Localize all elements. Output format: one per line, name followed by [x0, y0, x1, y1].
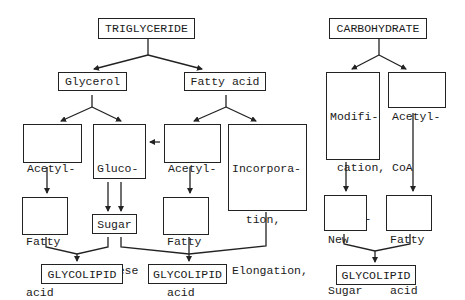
arrow-fattyacid-incorporation	[226, 107, 256, 121]
arrow-fattyacid-acetylcoa	[194, 107, 226, 121]
node-label: Modifi-	[330, 108, 376, 125]
node-fatty-acid-top: Fatty acid	[184, 72, 266, 91]
node-label: Acetyl-	[392, 108, 442, 125]
node-label: GLYCOLIPID	[341, 267, 410, 284]
node-acetyl-coa-left: Acetyl- CoA	[23, 124, 82, 163]
node-glycolipid-mid: GLYCOLIPID	[148, 264, 227, 284]
node-carbohydrate: CARBOHYDRATE	[329, 18, 427, 39]
node-acetyl-coa-mid: Acetyl- CoA	[164, 124, 221, 163]
node-label: Gluco-	[97, 160, 142, 177]
arrow-carbohydrate-modification	[352, 55, 379, 69]
node-label: Acetyl-	[27, 160, 78, 177]
node-label: Fatty acid	[190, 73, 259, 90]
node-fatty-acid-left: Fatty acid	[22, 197, 68, 235]
node-sugar: Sugar	[92, 214, 137, 234]
node-label: New	[328, 231, 363, 248]
arrow-carbohydrate-acetylcoa	[379, 55, 406, 69]
node-label: Fatty	[167, 233, 205, 250]
arrow-triglyceride-glycerol	[94, 55, 148, 69]
node-label: Fatty	[390, 231, 428, 248]
node-glycerol: Glycerol	[58, 72, 127, 91]
node-label: Acetyl-	[168, 160, 217, 177]
node-label: Sugar	[97, 216, 132, 233]
node-label: Elongation,	[232, 262, 303, 279]
node-glycolipid-left: GLYCOLIPID	[41, 264, 123, 284]
arrow-glycerol-acetylcoa	[61, 107, 92, 121]
node-fatty-acid-right: Fatty acid	[386, 195, 432, 231]
node-label: TRIGLYCERIDE	[105, 20, 188, 37]
node-gluconeogenese: Gluco- neo- genese	[93, 124, 146, 179]
node-label: cation,	[330, 159, 376, 176]
node-glycolipid-right: GLYCOLIPID	[336, 265, 416, 285]
node-label: CoA	[392, 159, 442, 176]
node-new-sugar: New Sugar	[324, 195, 367, 231]
node-label: CARBOHYDRATE	[337, 20, 420, 37]
node-label: GLYCOLIPID	[47, 266, 116, 283]
node-acetyl-coa-right: Acetyl- CoA	[388, 72, 446, 108]
node-label: acid	[26, 284, 64, 300]
node-label: acid	[167, 284, 205, 300]
node-label: Fatty	[26, 233, 64, 250]
node-triglyceride: TRIGLYCERIDE	[98, 18, 195, 39]
node-label: tion,	[232, 211, 303, 228]
arrow-glycerol-gluconeogenese	[92, 107, 121, 121]
node-label: Incorpora-	[232, 160, 303, 177]
node-modification: Modifi- cation, Trans- forma- tion	[326, 72, 380, 160]
node-label: Glycerol	[65, 73, 120, 90]
node-fatty-acid-mid: Fatty acid	[163, 197, 209, 235]
arrow-triglyceride-fattyacid	[148, 55, 202, 69]
node-label: GLYCOLIPID	[153, 266, 222, 283]
node-incorporation: Incorpora- tion, Elongation, Modifica- t…	[228, 124, 307, 211]
